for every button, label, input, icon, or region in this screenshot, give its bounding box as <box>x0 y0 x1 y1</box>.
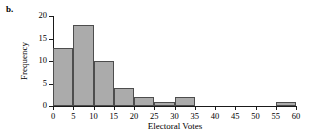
histogram-bar <box>94 61 114 106</box>
x-tick-mark <box>256 106 257 110</box>
histogram-bar <box>276 102 296 107</box>
x-tick-mark <box>195 106 196 110</box>
x-tick-label: 15 <box>104 111 124 121</box>
x-tick-label: 45 <box>225 111 245 121</box>
x-tick-mark <box>215 106 216 110</box>
x-tick-label: 25 <box>144 111 164 121</box>
x-tick-label: 10 <box>84 111 104 121</box>
x-tick-mark <box>114 106 115 110</box>
x-tick-mark <box>134 106 135 110</box>
x-tick-label: 5 <box>63 111 83 121</box>
y-tick-label: 15 <box>25 33 47 43</box>
x-tick-label: 60 <box>286 111 306 121</box>
x-tick-mark <box>154 106 155 110</box>
x-tick-mark <box>276 106 277 110</box>
histogram-bar <box>114 88 134 106</box>
x-tick-label: 40 <box>205 111 225 121</box>
y-axis-title: Frequency <box>19 42 29 80</box>
histogram-bar <box>134 97 154 106</box>
histogram-figure: b. 05101520 051015202530354045505560 Ele… <box>0 0 314 136</box>
x-tick-label: 35 <box>185 111 205 121</box>
x-tick-label: 20 <box>124 111 144 121</box>
x-tick-mark <box>53 106 54 110</box>
x-tick-mark <box>296 106 297 110</box>
panel-label: b. <box>6 4 13 14</box>
histogram-bar <box>175 97 195 106</box>
histogram-bar <box>53 48 73 107</box>
x-tick-mark <box>94 106 95 110</box>
plot-area <box>53 16 296 106</box>
histogram-bar <box>154 102 174 107</box>
x-tick-label: 0 <box>43 111 63 121</box>
x-axis-title: Electoral Votes <box>53 121 297 131</box>
x-tick-label: 55 <box>266 111 286 121</box>
histogram-bar <box>73 25 93 106</box>
y-tick-label: 0 <box>25 100 47 110</box>
x-tick-mark <box>235 106 236 110</box>
x-tick-mark <box>73 106 74 110</box>
y-tick-label: 20 <box>25 10 47 20</box>
x-tick-label: 50 <box>246 111 266 121</box>
x-tick-mark <box>175 106 176 110</box>
x-tick-label: 30 <box>165 111 185 121</box>
